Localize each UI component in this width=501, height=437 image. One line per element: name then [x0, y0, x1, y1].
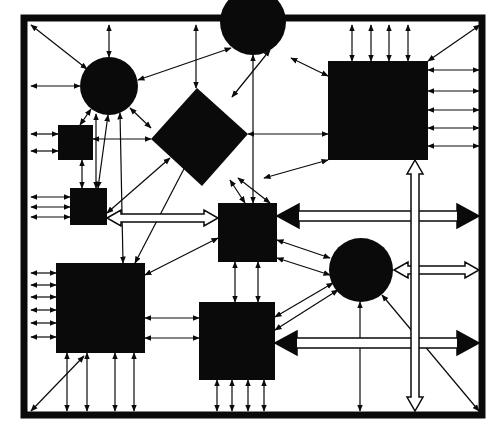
bus-arrowhead — [277, 204, 299, 228]
connection-arrow — [145, 238, 218, 275]
connection-arrow — [130, 108, 151, 128]
connection-arrow — [98, 115, 108, 188]
square-large-top-right — [328, 61, 428, 160]
bus-horizontal-top — [277, 204, 479, 228]
functional-blocks — [56, 0, 428, 380]
connection-arrow — [107, 158, 170, 213]
connection-arrow — [135, 163, 187, 263]
square-bottom-center — [199, 302, 275, 380]
connection-arrow — [230, 180, 245, 203]
connection-arrow — [31, 356, 84, 411]
connection-arrow — [232, 50, 270, 97]
bus-horizontal-bottom — [275, 331, 479, 355]
connection-arrow — [428, 25, 480, 61]
connection-arrow — [264, 160, 328, 178]
connection-arrow — [382, 295, 479, 411]
bus-horizontal-left — [107, 210, 218, 226]
bus-arrowhead — [275, 331, 297, 355]
connection-arrow — [31, 25, 87, 69]
bus-arrowhead — [457, 204, 479, 228]
circle-top-left — [80, 57, 138, 115]
connection-arrow — [138, 48, 231, 80]
connection-arrow — [275, 290, 338, 330]
connection-arrow — [80, 109, 91, 125]
connection-arrow — [291, 58, 328, 76]
square-large-bottom-left — [56, 263, 145, 353]
semicircle-top-center — [220, 0, 286, 55]
square-small-left-2 — [70, 188, 107, 225]
connection-arrow — [277, 258, 330, 275]
block-interconnect-diagram — [0, 0, 501, 437]
connection-arrow — [277, 240, 330, 258]
square-center — [218, 203, 277, 262]
bus-horizontal-middle — [394, 262, 479, 278]
square-small-left — [58, 125, 93, 160]
data-buses — [107, 160, 479, 411]
diamond-center — [151, 88, 248, 186]
bus-vertical-right — [407, 160, 423, 411]
bus-arrowhead — [457, 331, 479, 355]
diagram-stage: Block interconnect diagram — [0, 0, 501, 437]
connection-arrow — [120, 113, 123, 263]
circle-right — [329, 238, 393, 302]
